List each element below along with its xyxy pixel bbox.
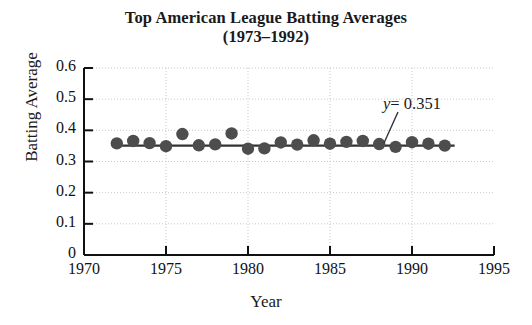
y-tick-label: 0.5 (28, 88, 76, 106)
x-tick-label: 1980 (218, 260, 278, 278)
data-point (193, 139, 205, 151)
data-points (111, 127, 451, 155)
fit-line-annotation: y= 0.351 (383, 94, 441, 114)
x-tick-label: 1995 (464, 260, 524, 278)
data-point (357, 135, 369, 147)
data-point (209, 138, 221, 150)
data-point (127, 135, 139, 147)
data-point (242, 143, 254, 155)
y-tick-label: 0.6 (28, 57, 76, 75)
data-point (373, 138, 385, 150)
x-tick-label: 1970 (54, 260, 114, 278)
x-tick-label: 1975 (136, 260, 196, 278)
annotation-rest: = 0.351 (390, 94, 441, 113)
x-tick-label: 1990 (382, 260, 442, 278)
data-point (176, 128, 188, 140)
data-point (389, 141, 401, 153)
data-point (406, 136, 418, 148)
data-point (143, 137, 155, 149)
y-tick-label: 0.3 (28, 151, 76, 169)
y-tick-label: 0.4 (28, 119, 76, 137)
x-tick-label: 1985 (300, 260, 360, 278)
y-tick-label: 0.2 (28, 182, 76, 200)
data-point (324, 138, 336, 150)
data-point (225, 127, 237, 139)
data-point (258, 142, 270, 154)
data-point (340, 136, 352, 148)
chart-figure: Top American League Batting Averages (19… (0, 0, 532, 325)
data-point (422, 138, 434, 150)
data-point (307, 134, 319, 146)
y-tick-label: 0.1 (28, 213, 76, 231)
data-point (111, 137, 123, 149)
data-point (275, 136, 287, 148)
data-point (160, 140, 172, 152)
data-point (439, 139, 451, 151)
annotation-leader-line (384, 112, 398, 143)
data-point (291, 138, 303, 150)
leader-line (384, 112, 398, 143)
